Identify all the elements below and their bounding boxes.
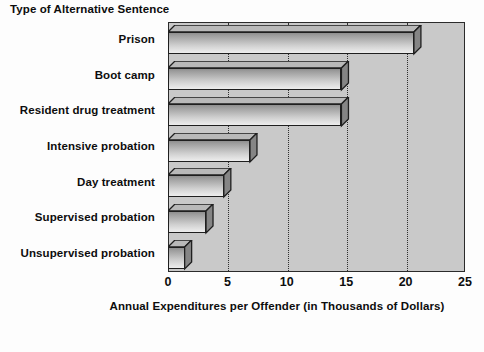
- y-axis-tick-labels: PrisonBoot campResident drug treatmentIn…: [0, 22, 163, 272]
- bar: [168, 97, 348, 126]
- x-tick-label: 0: [165, 275, 172, 289]
- bar-front-face: [168, 68, 341, 90]
- x-tick-label: 25: [458, 275, 472, 289]
- bar: [168, 168, 231, 197]
- x-tick-label: 20: [399, 275, 413, 289]
- bar-front-face: [168, 32, 414, 54]
- y-tick-label: Intensive probation: [47, 140, 155, 152]
- bar-front-face: [168, 140, 250, 162]
- x-axis-tick-labels: 0510152025: [168, 275, 465, 293]
- y-tick-label: Day treatment: [77, 176, 155, 188]
- bar-front-face: [168, 247, 185, 269]
- bar: [168, 133, 257, 162]
- bar-chart-figure: Type of Alternative Sentence PrisonBoot …: [0, 0, 484, 352]
- y-tick-label: Supervised probation: [35, 211, 155, 223]
- x-axis-title-text: Annual Expenditures per Offender (in Tho…: [40, 300, 445, 312]
- bar: [168, 240, 192, 269]
- x-tick-label: 15: [339, 275, 353, 289]
- y-tick-label: Prison: [119, 33, 155, 45]
- bar-front-face: [168, 104, 341, 126]
- bars-layer: [168, 22, 465, 272]
- y-tick-label: Unsupervised probation: [21, 247, 155, 259]
- bar: [168, 61, 348, 90]
- x-tick-label: 10: [280, 275, 294, 289]
- y-tick-label: Boot camp: [95, 69, 155, 81]
- x-axis-title: Annual Expenditures per Offender (in Tho…: [0, 300, 484, 312]
- x-tick-label: 5: [224, 275, 231, 289]
- y-axis-title: Type of Alternative Sentence: [10, 3, 169, 15]
- bar: [168, 204, 213, 233]
- bar-front-face: [168, 211, 206, 233]
- bar: [168, 25, 421, 54]
- y-tick-label: Resident drug treatment: [20, 104, 155, 116]
- bar-front-face: [168, 175, 224, 197]
